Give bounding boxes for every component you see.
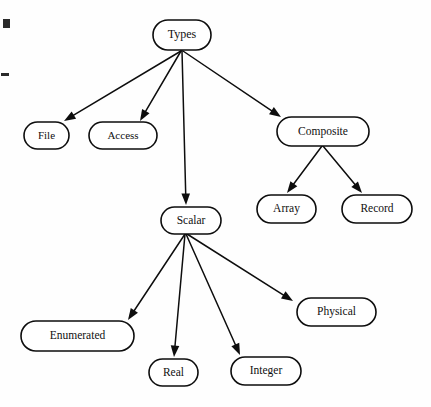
edge-line	[183, 51, 273, 112]
edge-scalar-to-physical	[187, 234, 293, 301]
node-label: Scalar	[177, 214, 206, 226]
node-array[interactable]: Array	[257, 195, 316, 223]
arrowhead-icon	[128, 308, 138, 320]
node-scalar[interactable]: Scalar	[161, 207, 221, 234]
edge-composite-to-record	[323, 146, 362, 193]
node-label: Integer	[250, 364, 283, 377]
edge-types-to-access	[140, 51, 181, 121]
node-label: Composite	[298, 125, 348, 138]
node-record[interactable]: Record	[342, 195, 412, 223]
node-label: Access	[107, 129, 138, 141]
arrowhead-icon	[269, 107, 281, 117]
edge-scalar-to-enumerated	[128, 234, 185, 320]
node-label: File	[38, 129, 55, 141]
edge-line	[133, 234, 185, 312]
node-composite[interactable]: Composite	[277, 117, 369, 146]
node-integer[interactable]: Integer	[231, 357, 301, 385]
edge-line	[182, 51, 186, 196]
edge-line	[175, 234, 185, 348]
node-access[interactable]: Access	[89, 122, 157, 149]
diagram-canvas: TypesFileAccessCompositeArrayRecordScala…	[0, 0, 431, 407]
node-enumerated[interactable]: Enumerated	[21, 321, 134, 351]
arrowhead-icon	[181, 193, 190, 205]
edge-scalar-to-integer	[186, 234, 240, 355]
edge-types-to-file	[64, 51, 181, 121]
node-physical[interactable]: Physical	[297, 298, 376, 326]
node-file[interactable]: File	[24, 122, 69, 149]
edge-line	[186, 234, 236, 347]
edge-line	[323, 146, 356, 186]
node-label: Record	[360, 202, 393, 214]
node-types[interactable]: Types	[153, 20, 211, 50]
edge-line	[72, 51, 181, 116]
node-label: Physical	[317, 305, 356, 318]
arrowhead-icon	[231, 343, 240, 355]
node-label: Enumerated	[50, 329, 106, 341]
arrowhead-icon	[64, 111, 76, 121]
edge-types-to-composite	[183, 51, 281, 117]
node-label: Real	[163, 366, 184, 378]
types-hierarchy-diagram: TypesFileAccessCompositeArrayRecordScala…	[0, 0, 431, 407]
arrowhead-icon	[140, 109, 150, 121]
edge-line	[293, 146, 322, 186]
edge-line	[145, 51, 181, 113]
node-real[interactable]: Real	[149, 359, 198, 386]
node-label: Array	[273, 202, 300, 215]
nodes-layer: TypesFileAccessCompositeArrayRecordScala…	[21, 20, 412, 386]
edge-types-to-scalar	[181, 51, 190, 205]
arrowhead-icon	[171, 345, 180, 357]
edge-composite-to-array	[287, 146, 322, 193]
arrowhead-icon	[287, 181, 297, 193]
node-label: Types	[168, 27, 197, 41]
arrowhead-icon	[281, 291, 293, 301]
edge-line	[187, 234, 285, 296]
